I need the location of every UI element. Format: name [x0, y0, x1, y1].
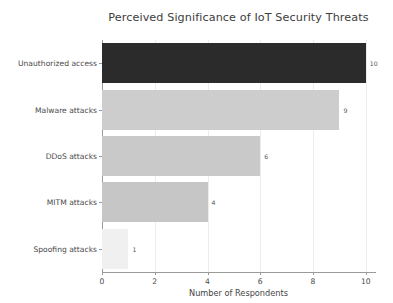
bar-value-label: 1	[132, 246, 136, 253]
bar[interactable]	[102, 229, 128, 269]
chart-figure: Perceived Significance of IoT Security T…	[0, 0, 393, 303]
bar[interactable]	[102, 90, 339, 130]
x-tick-label: 0	[100, 277, 105, 286]
gridline	[366, 40, 367, 272]
x-tick-label: 6	[258, 277, 263, 286]
bar[interactable]	[102, 136, 260, 176]
x-tick-mark	[366, 272, 367, 275]
x-tick-mark	[102, 272, 103, 275]
x-tick-mark	[155, 272, 156, 275]
x-axis-spine	[102, 272, 376, 273]
y-tick-label: Unauthorized access	[18, 59, 97, 68]
x-axis-label: Number of Respondents	[102, 288, 375, 298]
x-tick-mark	[313, 272, 314, 275]
x-tick-label: 8	[311, 277, 316, 286]
x-tick-mark	[208, 272, 209, 275]
bar[interactable]	[102, 182, 208, 222]
y-tick-mark	[99, 249, 102, 250]
y-tick-mark	[99, 110, 102, 111]
x-tick-label: 4	[205, 277, 210, 286]
y-tick-label: Malware attacks	[35, 105, 97, 114]
bar-value-label: 4	[212, 199, 216, 206]
y-tick-mark	[99, 202, 102, 203]
x-tick-label: 2	[152, 277, 157, 286]
chart-title: Perceived Significance of IoT Security T…	[102, 11, 375, 24]
y-tick-mark	[99, 156, 102, 157]
y-tick-label: DDoS attacks	[46, 152, 97, 161]
bar-value-label: 6	[264, 153, 268, 160]
y-tick-label: Spoofing attacks	[33, 244, 97, 253]
y-tick-label: MITM attacks	[47, 198, 97, 207]
x-tick-mark	[260, 272, 261, 275]
bar[interactable]	[102, 43, 366, 83]
plot-area: 109641	[102, 40, 375, 272]
bar-value-label: 9	[343, 107, 347, 114]
y-tick-mark	[99, 63, 102, 64]
x-tick-label: 10	[361, 277, 371, 286]
bar-value-label: 10	[370, 60, 378, 67]
